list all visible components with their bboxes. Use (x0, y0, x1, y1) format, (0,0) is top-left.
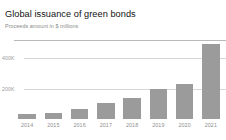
bar-2021[interactable] (202, 44, 219, 119)
bar-2018[interactable] (123, 98, 140, 119)
x-tick-slot: 2016 (67, 122, 93, 129)
chart-header: Global issuance of green bonds Proceeds … (5, 9, 222, 30)
bars-layer (14, 40, 224, 119)
x-tick-slot: 2019 (145, 122, 171, 129)
chart-title: Global issuance of green bonds (5, 9, 222, 20)
bar-slot (119, 40, 145, 119)
y-axis-tick-label: 400K (2, 55, 15, 61)
bar-2020[interactable] (176, 84, 193, 119)
x-axis-labels: 20142015201620172018201920202021 (14, 122, 224, 129)
bar-slot (14, 40, 40, 119)
bar-slot (40, 40, 66, 119)
bar-slot (67, 40, 93, 119)
x-axis-tick-label-2021: 2021 (198, 122, 224, 129)
bar-2019[interactable] (150, 89, 167, 119)
bar-2015[interactable] (45, 113, 62, 120)
x-tick-slot: 2018 (119, 122, 145, 129)
bar-2014[interactable] (18, 114, 35, 119)
bar-slot (172, 40, 198, 119)
x-axis-tick-label-2016: 2016 (67, 122, 93, 129)
x-tick-slot: 2020 (172, 122, 198, 129)
bar-slot (198, 40, 224, 119)
x-tick-slot: 2014 (14, 122, 40, 129)
x-axis-tick-label-2018: 2018 (119, 122, 145, 129)
bar-2017[interactable] (97, 103, 114, 119)
x-tick-slot: 2015 (40, 122, 66, 129)
y-axis-tick-label: 200K (2, 86, 15, 92)
x-axis-tick-label-2017: 2017 (93, 122, 119, 129)
x-axis-tick-label-2015: 2015 (40, 122, 66, 129)
x-axis-tick-label-2019: 2019 (145, 122, 171, 129)
x-axis-tick-label-2014: 2014 (14, 122, 40, 129)
x-tick-slot: 2017 (93, 122, 119, 129)
bar-slot (93, 40, 119, 119)
plot-area: 200K400K 2014201520162017201820192020202… (0, 40, 226, 140)
bar-2016[interactable] (71, 109, 88, 119)
x-tick-slot: 2021 (198, 122, 224, 129)
green-bonds-bar-chart: Global issuance of green bonds Proceeds … (0, 0, 226, 140)
x-axis-tick-label-2020: 2020 (172, 122, 198, 129)
chart-subtitle: Proceeds amount in $ millions (5, 23, 222, 30)
bar-slot (145, 40, 171, 119)
